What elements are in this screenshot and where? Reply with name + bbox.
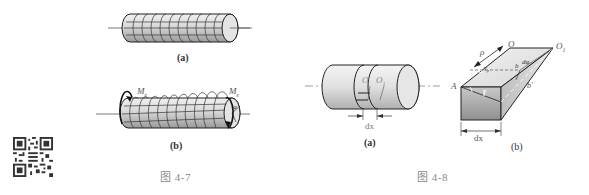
point-a-lower-label: a <box>479 67 483 75</box>
dphi-label: dφ <box>522 58 529 66</box>
figure-4-8-b-label: (b) <box>511 141 523 152</box>
point-o1-label: O1 <box>556 41 566 53</box>
point-b-prime-label: b' <box>527 81 533 90</box>
point-b-label: b <box>515 62 519 70</box>
gamma-label: γ <box>483 87 486 96</box>
point-a-upper-label: A <box>451 81 457 91</box>
rho-label: ρ <box>480 47 484 57</box>
dx-dimension-label-b: dx <box>474 133 483 143</box>
figure-4-8-b <box>0 0 589 195</box>
point-o-label: O <box>508 39 515 49</box>
gamma-rho-label: γρ <box>484 64 489 73</box>
figure-4-8-caption: 图 4-8 <box>417 168 448 184</box>
